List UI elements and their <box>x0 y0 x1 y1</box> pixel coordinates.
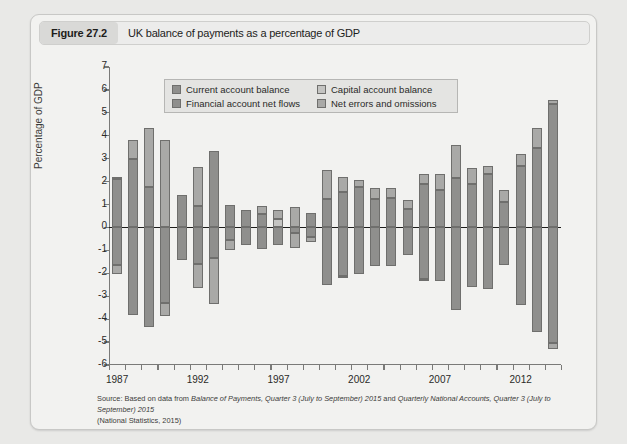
source-note: Source: Based on data from Balance of Pa… <box>97 393 587 426</box>
x-tick <box>141 365 142 370</box>
bar-segment <box>451 227 461 310</box>
x-tick <box>319 365 320 370</box>
bar-segment <box>241 227 251 244</box>
bar-segment <box>548 343 558 349</box>
bar-segment <box>419 227 429 279</box>
bar-segment <box>112 265 122 274</box>
bar-segment <box>386 227 396 266</box>
x-tick <box>464 365 465 370</box>
bar-segment <box>257 227 267 249</box>
bar <box>516 67 526 365</box>
bar <box>548 67 558 365</box>
bar-segment <box>338 276 348 278</box>
bar-segment <box>435 190 445 228</box>
bar-segment <box>306 237 316 243</box>
bar-segment <box>419 279 429 281</box>
bar-segment <box>467 184 477 228</box>
x-tick <box>206 365 207 370</box>
bar-segment <box>435 174 445 190</box>
bar-segment <box>160 140 170 227</box>
x-tick-label: 2002 <box>337 374 381 385</box>
bar-segment <box>193 206 203 228</box>
x-tick <box>174 365 175 370</box>
bar-segment <box>128 227 138 314</box>
bar-segment <box>322 227 332 284</box>
y-tick-label: -3 <box>67 289 107 300</box>
x-tick <box>270 365 271 370</box>
bar-segment <box>435 227 445 281</box>
bar-segment <box>532 128 542 149</box>
chart-legend: Current account balanceCapital account b… <box>164 79 458 113</box>
bar-segment <box>112 227 122 265</box>
x-tick <box>335 365 336 370</box>
x-tick-label: 1987 <box>95 374 139 385</box>
bar-segment <box>144 128 154 188</box>
legend-swatch <box>317 99 326 108</box>
legend-item: Net errors and omissions <box>317 98 437 109</box>
bar-segment <box>516 154 526 165</box>
bar-segment <box>209 258 219 304</box>
y-tick-label: 6 <box>67 83 107 94</box>
source-mid: and <box>381 394 397 403</box>
x-tick <box>480 365 481 370</box>
x-tick <box>157 365 158 370</box>
bar-segment <box>144 187 154 227</box>
bar-segment <box>177 227 187 259</box>
legend-item: Current account balance <box>172 84 290 95</box>
bar <box>112 67 122 365</box>
x-tick <box>367 365 368 370</box>
bar-segment <box>516 166 526 228</box>
bar-segment <box>386 198 396 228</box>
y-tick-label: -5 <box>67 335 107 346</box>
x-tick <box>513 365 514 370</box>
legend-swatch <box>317 85 326 94</box>
bar-segment <box>354 227 364 274</box>
figure-number-badge: Figure 27.2 <box>40 22 118 44</box>
legend-swatch <box>172 85 181 94</box>
y-tick-label: 3 <box>67 152 107 163</box>
bar <box>532 67 542 365</box>
bar-segment <box>112 179 122 227</box>
x-tick-label: 2007 <box>418 374 462 385</box>
bar-segment <box>112 177 122 179</box>
bar-segment <box>209 227 219 258</box>
bar <box>144 67 154 365</box>
y-tick-label: 2 <box>67 175 107 186</box>
bar <box>128 67 138 365</box>
figure-card: Figure 27.2 UK balance of payments as a … <box>30 14 597 430</box>
source-line2: (National Statistics, 2015) <box>97 416 181 425</box>
legend-label: Net errors and omissions <box>331 98 437 109</box>
bar-segment <box>370 199 380 228</box>
bar-segment <box>370 227 380 266</box>
legend-label: Current account balance <box>186 84 290 95</box>
bar-segment <box>499 227 509 265</box>
bar-segment <box>306 227 316 236</box>
bar-segment <box>403 227 413 255</box>
legend-label: Financial account net flows <box>186 98 300 109</box>
bar <box>483 67 493 365</box>
x-tick <box>109 365 110 370</box>
y-tick-label: 7 <box>67 60 107 71</box>
figure-header: Figure 27.2 UK balance of payments as a … <box>39 21 590 45</box>
bar-segment <box>177 195 187 227</box>
bar-segment <box>257 214 267 228</box>
y-tick-label: -1 <box>67 243 107 254</box>
bar-segment <box>322 170 332 199</box>
bar-segment <box>273 219 283 227</box>
bar <box>499 67 509 365</box>
bar-segment <box>548 227 558 343</box>
bar-segment <box>354 187 364 227</box>
x-tick <box>496 365 497 370</box>
y-tick-label: -6 <box>67 358 107 369</box>
bar-segment <box>160 303 170 316</box>
source-prefix: Source: Based on data from <box>97 394 191 403</box>
bar-segment <box>451 178 461 227</box>
x-tick <box>303 365 304 370</box>
chart-area: Percentage of GDP 76543210-1-2-3-4-5-6 1… <box>39 51 590 391</box>
bar-segment <box>451 145 461 178</box>
bar-segment <box>225 240 235 250</box>
x-tick <box>351 365 352 370</box>
bar-segment <box>483 174 493 228</box>
bar-segment <box>290 233 300 248</box>
bar-segment <box>386 188 396 197</box>
